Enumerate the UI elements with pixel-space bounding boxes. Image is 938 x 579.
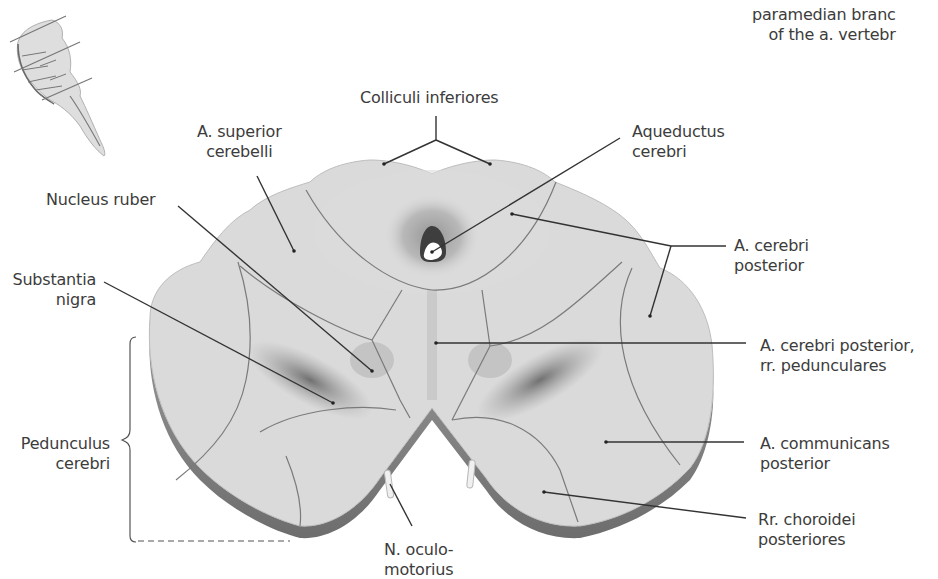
brainstem-thumbnail-icon bbox=[10, 16, 105, 156]
label-nucleus-ruber: Nucleus ruber bbox=[46, 190, 155, 210]
label-text: cerebri bbox=[12, 454, 110, 474]
label-text: Aqueductus bbox=[632, 122, 725, 142]
label-substantia-nigra: Substantia nigra bbox=[4, 270, 96, 310]
label-a-superior-cerebelli: A. superior cerebelli bbox=[197, 122, 282, 162]
figure-title-fragment: paramedian branc of the a. vertebr bbox=[752, 5, 896, 45]
label-text: A. superior bbox=[197, 122, 282, 142]
label-aqueductus-cerebri: Aqueductus cerebri bbox=[632, 122, 725, 162]
label-text: Rr. choroidei bbox=[758, 510, 855, 530]
title-line-2: of the a. vertebr bbox=[752, 25, 896, 45]
label-text: rr. pedunculares bbox=[760, 356, 915, 376]
label-text: Pedunculus bbox=[12, 434, 110, 454]
label-colliculi-inferiores: Colliculi inferiores bbox=[360, 88, 499, 108]
label-text: posteriores bbox=[758, 530, 855, 550]
label-text: A. cerebri bbox=[734, 236, 809, 256]
title-line-1: paramedian branc bbox=[752, 5, 896, 25]
label-text: A. cerebri posterior, bbox=[760, 336, 915, 356]
label-a-cerebri-posterior: A. cerebri posterior bbox=[734, 236, 809, 276]
label-text: nigra bbox=[4, 290, 96, 310]
label-text: N. oculo- bbox=[384, 540, 453, 560]
label-a-communicans-posterior: A. communicans posterior bbox=[760, 434, 890, 474]
label-text: Substantia bbox=[4, 270, 96, 290]
label-text: posterior bbox=[734, 256, 809, 276]
midbrain-cross-section-figure: paramedian branc of the a. vertebr Colli… bbox=[0, 0, 938, 579]
label-text: A. communicans bbox=[760, 434, 890, 454]
label-text: Nucleus ruber bbox=[46, 190, 155, 210]
label-rr-choroidei-posteriores: Rr. choroidei posteriores bbox=[758, 510, 855, 550]
label-n-oculomotorius: N. oculo- motorius bbox=[384, 540, 453, 579]
label-pedunculus-cerebri: Pedunculus cerebri bbox=[12, 434, 110, 474]
label-a-cerebri-posterior-rr-pedunculares: A. cerebri posterior, rr. pedunculares bbox=[760, 336, 915, 376]
label-text: Colliculi inferiores bbox=[360, 88, 499, 108]
label-text: cerebelli bbox=[197, 142, 282, 162]
label-text: motorius bbox=[384, 560, 453, 579]
diagram-canvas bbox=[0, 0, 938, 579]
label-text: posterior bbox=[760, 454, 890, 474]
label-text: cerebri bbox=[632, 142, 725, 162]
